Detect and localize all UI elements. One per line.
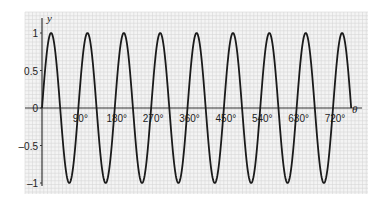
- y-tick-label: –0.5: [19, 141, 39, 152]
- y-tick-label: 1: [32, 28, 38, 39]
- y-tick-label: –1: [27, 178, 39, 189]
- sine-chart: 90°180°270°360°450°540°630°720° 10.50–0.…: [0, 0, 384, 201]
- x-tick-label: 180°: [106, 113, 127, 124]
- y-axis-label: y: [46, 12, 52, 24]
- y-tick-label: 0.5: [24, 66, 38, 77]
- x-tick-label: 630°: [288, 113, 309, 124]
- x-tick-label: 360°: [179, 113, 200, 124]
- x-tick-label: 540°: [252, 113, 273, 124]
- x-axis-label: θ: [352, 103, 358, 115]
- plot-background: [25, 12, 368, 194]
- x-tick-label: 270°: [143, 113, 164, 124]
- x-tick-label: 90°: [73, 113, 88, 124]
- x-tick-label: 450°: [216, 113, 237, 124]
- x-tick-label: 720°: [325, 113, 346, 124]
- y-tick-label: 0: [32, 103, 38, 114]
